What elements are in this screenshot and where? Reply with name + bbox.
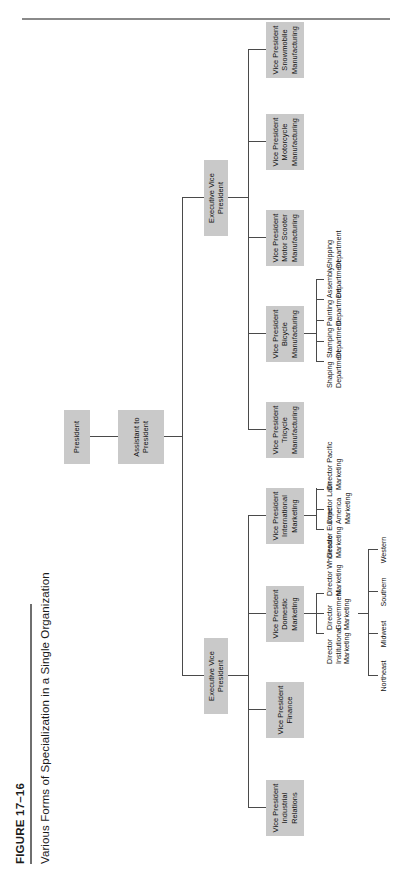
figure-title: Various Forms of Specialization in a Sin…: [39, 434, 51, 864]
figure-canvas: FIGURE 17–16 Various Forms of Specializa…: [0, 0, 411, 882]
connector-vp-snowmobile-drop: [248, 49, 266, 50]
connector-evp-bus: [182, 198, 183, 676]
connector-left-evp-bus: [248, 516, 249, 808]
connector-department-shipping: [316, 279, 324, 280]
connector-domestic-directors-bus: [316, 594, 317, 634]
connector-director-europe-marketing: [316, 529, 324, 530]
node-president: President: [64, 410, 90, 464]
connector-intl-directors-stem: [304, 515, 316, 516]
connector-region-western: [368, 549, 378, 550]
connector-director-institutional-marketing: [316, 633, 324, 634]
connector-regions-stem: [358, 613, 368, 614]
connector-domestic-directors-stem: [304, 613, 316, 614]
node-vp-motorcycle-manufacturing: Vice President Motorcycle Manufacturing: [266, 114, 304, 170]
node-vp-industrial-relations: Vice President Industrial Relations: [266, 780, 304, 836]
leaf-department-shipping: Shipping Department: [326, 206, 343, 268]
connector-region-southern: [368, 591, 378, 592]
connector-main-trunk: [164, 436, 182, 437]
connector-vp-motorcycle-drop: [248, 141, 266, 142]
node-executive-vice-president-left: Executive Vice President: [204, 638, 228, 714]
connector-right-evp-stem: [228, 197, 248, 198]
figure-caption: FIGURE 17–16 Various Forms of Specializa…: [14, 434, 51, 864]
connector-vp-industrial-relations-drop: [248, 807, 266, 808]
connector-regions-bus: [368, 550, 369, 676]
connector-director-wholesale-marketing: [316, 593, 324, 594]
connector-left-evp-stem: [228, 675, 248, 676]
leaf-director-latin-america-marketing-line2: Marketing: [344, 462, 353, 524]
connector-region-northeast: [368, 675, 378, 676]
connector-vp-finance-drop: [248, 709, 266, 710]
page-edge-rule: [22, 18, 390, 20]
connector-assistant-stem: [112, 436, 118, 437]
figure-number: FIGURE 17–16: [14, 434, 26, 864]
connector-vp-domestic-marketing-drop: [248, 613, 266, 614]
region-southern: Southern: [380, 570, 389, 614]
node-vp-snowmobile-manufacturing: Vice President Snowmobile Manufacturing: [266, 22, 304, 78]
connector-vp-motor-scooter-drop: [248, 237, 266, 238]
region-western: Western: [380, 528, 389, 572]
connector-evp-left-drop: [182, 675, 204, 676]
figure-rule: [30, 604, 32, 864]
region-midwest: Midwest: [380, 612, 389, 656]
connector-president-stem: [90, 436, 112, 437]
connector-vp-international-marketing-drop: [248, 515, 266, 516]
connector-vp-tricycle-drop: [248, 429, 266, 430]
connector-department-painting: [316, 320, 324, 321]
node-executive-vice-president-right: Executive Vice President: [204, 160, 228, 236]
connector-vp-bicycle-drop: [248, 333, 266, 334]
connector-evp-right-drop: [182, 197, 204, 198]
connector-director-government-marketing: [316, 613, 324, 614]
node-vp-tricycle-manufacturing: Vice President Tricycle Manufacturing: [266, 402, 304, 458]
connector-department-assembly: [316, 299, 324, 300]
connector-department-stamping: [316, 341, 324, 342]
node-assistant-to-president: Assistant to President: [118, 410, 164, 464]
node-vp-finance: Vice President Finance: [266, 682, 304, 738]
leaf-director-pacific-marketing: Director Pacific Marketing: [326, 428, 343, 490]
node-vp-motor-scooter-manufacturing: Vice President Motor Scooter Manufacturi…: [266, 210, 304, 266]
node-vp-domestic-marketing: Vice President Domestic Marketing: [266, 586, 304, 642]
node-vp-bicycle-manufacturing: Vice President Bicycle Manufacturing: [266, 306, 304, 362]
connector-bicycle-departments-stem: [304, 333, 316, 334]
connector-department-shaping: [316, 361, 324, 362]
connector-bicycle-departments-bus: [316, 280, 317, 362]
region-northeast: Northeast: [380, 654, 389, 698]
connector-director-pacific-marketing: [316, 489, 324, 490]
node-vp-international-marketing: Vice President International Marketing: [266, 488, 304, 544]
connector-region-midwest: [368, 633, 378, 634]
connector-director-latin-america-marketing: [316, 509, 324, 510]
connector-right-evp-bus: [248, 50, 249, 430]
